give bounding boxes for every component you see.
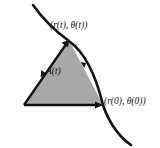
figure-container: (r(t), θ(t)) (r(0), θ(0)) A(t)	[0, 0, 160, 148]
label-swept-area: A(t)	[46, 67, 61, 77]
label-point-at-time-t: (r(t), θ(t))	[50, 21, 87, 31]
label-point-at-time-zero: (r(0), θ(0))	[104, 97, 146, 107]
